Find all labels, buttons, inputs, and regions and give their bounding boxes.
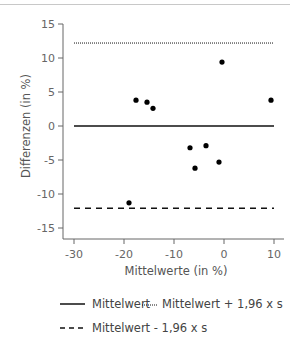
x-tick-label: -20 [115, 248, 133, 261]
data-point [144, 100, 149, 105]
legend-mean-label: Mittelwert [92, 297, 151, 311]
data-point [203, 143, 208, 148]
data-point [192, 166, 197, 171]
y-tick-label: -10 [37, 188, 55, 201]
x-tick-label: 0 [221, 248, 228, 261]
data-points [126, 59, 273, 205]
x-tick-label: -30 [65, 248, 83, 261]
x-axis-label: Mittelwerte (in %) [125, 264, 228, 278]
bland-altman-chart: 151050-5-10-15-30-20-10010 Mittelwerte (… [0, 0, 300, 340]
y-tick-label: -5 [44, 154, 55, 167]
y-tick-label: 5 [48, 86, 55, 99]
data-point [126, 200, 131, 205]
data-point [133, 98, 138, 103]
legend-lower-label: Mittelwert - 1,96 x s [92, 321, 207, 335]
reference-lines [74, 43, 274, 208]
data-point [216, 159, 221, 164]
data-point [187, 145, 192, 150]
data-point [268, 98, 273, 103]
axes: 151050-5-10-15-30-20-10010 [37, 18, 284, 261]
x-tick-label: 10 [267, 248, 281, 261]
y-tick-label: 0 [48, 120, 55, 133]
y-tick-label: 10 [41, 52, 55, 65]
legend: Mittelwert Mittelwert + 1,96 x s Mittelw… [60, 297, 283, 335]
legend-upper-label: Mittelwert + 1,96 x s [162, 297, 283, 311]
data-point [150, 106, 155, 111]
y-tick-label: 15 [41, 18, 55, 31]
data-point [219, 59, 224, 64]
y-axis-label: Differenzen (in %) [19, 74, 33, 178]
x-tick-label: -10 [165, 248, 183, 261]
y-tick-label: -15 [37, 222, 55, 235]
